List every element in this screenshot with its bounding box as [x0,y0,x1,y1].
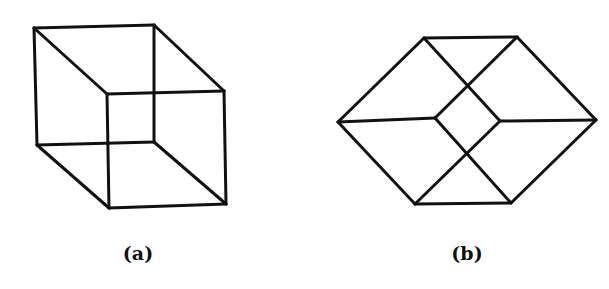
cube-edge [500,120,596,121]
cube-edge [154,25,224,91]
cube-edge [37,145,109,208]
cube-edge [224,91,226,204]
cube-figure [0,0,609,289]
cube-edge [34,25,154,28]
cube-edge [37,142,154,145]
cube-edge [107,94,109,208]
cube-edge [109,204,226,208]
cube-edge [154,142,226,204]
cube-b-wireframe [338,37,596,204]
cube-edge [338,118,435,122]
cube-edge [415,121,500,204]
cube-edge [424,37,517,38]
cube-edge [511,120,596,203]
panel-b-label: (b) [451,242,482,264]
cube-edge [338,38,424,122]
cube-edge [517,37,596,120]
panel-a-label: (a) [123,242,153,264]
cube-edge [34,28,37,145]
cube-edge [435,37,517,118]
cube-edge [34,28,107,94]
cube-edge [338,122,415,204]
cube-edge [424,38,500,121]
cube-edge [107,91,224,94]
cube-edge [415,203,511,204]
cube-a-wireframe [34,25,226,208]
cube-edge [435,118,511,203]
